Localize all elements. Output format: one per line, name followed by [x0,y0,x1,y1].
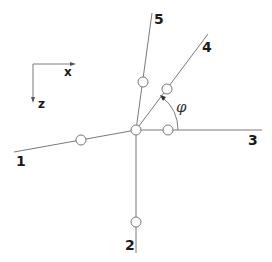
center-node [131,125,141,135]
z-axis-label: z [38,97,45,111]
branch-4-node [162,84,172,94]
branch-2-label: 2 [125,237,135,253]
z-axis-arrow-icon [31,97,35,103]
branch-5-node [138,77,148,87]
axes: x z [31,62,76,111]
branch-1-line [14,130,136,152]
branch-2-node [131,217,141,227]
branch-1-node [76,135,86,145]
branch-5-label: 5 [154,11,164,27]
branch-4-label: 4 [202,39,212,55]
branch-1-label: 1 [16,153,26,169]
branch-3-label: 3 [248,132,258,148]
junction-diagram: x z φ 1 2 3 4 5 [0,0,272,262]
angle-label: φ [176,98,187,116]
x-axis-label: x [64,65,72,79]
branch-3-node [163,125,173,135]
